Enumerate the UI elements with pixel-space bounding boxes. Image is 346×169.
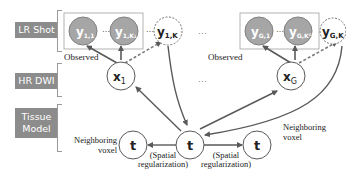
diagram-canvas: y1,1 ⋯ y1,K₁ ⋯ y1,K … yG,1 ⋯ yG,Kᴳ ⋯ yG,… [0, 0, 346, 169]
graphical-model-diagram: LR Shot HR DWI Tissue Model [0, 0, 346, 169]
svg-text:t: t [130, 138, 136, 153]
spatial-label-right-2: regularization) [201, 159, 251, 169]
neighboring-label-left-2: voxel [98, 145, 118, 155]
node-y-1-k-unobserved: y1,K [154, 17, 182, 45]
node-y-g-k-unobserved: yG,K [320, 18, 346, 44]
spatial-label-left-2: regularization) [138, 159, 188, 169]
node-x-1: x1 [107, 62, 135, 90]
neighboring-label-left-1: Neighboring [74, 135, 118, 145]
neighboring-label-right-1: Neighboring [283, 122, 327, 132]
ellipsis-yg: ⋯ [276, 27, 284, 36]
observed-label-right: Observed [208, 52, 243, 62]
node-x-g: xG [277, 62, 305, 90]
ellipsis-y1: ⋯ [102, 27, 110, 36]
svg-text:t: t [187, 138, 193, 153]
neighboring-label-right-2: voxel [283, 132, 303, 142]
observed-label-left: Observed [64, 52, 99, 62]
node-t-neighbor-right: t [243, 131, 271, 159]
ellipsis-hr-dwi: … [198, 74, 207, 84]
node-t-center: t [176, 131, 204, 159]
ellipsis-y1-unobserved: ⋯ [146, 27, 154, 36]
node-t-neighbor-left: t [119, 131, 147, 159]
node-y-1-1: y1,1 [69, 17, 97, 45]
node-y-1-k1: y1,K₁ [110, 17, 138, 45]
ellipsis-between-groups: … [198, 26, 207, 36]
node-y-g-kg: yG,Kᴳ [284, 17, 312, 45]
svg-text:t: t [254, 138, 260, 153]
node-y-g-1: yG,1 [245, 17, 273, 45]
